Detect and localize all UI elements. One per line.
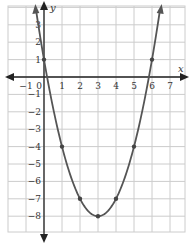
- y-tick-label: −8: [28, 211, 42, 221]
- y-tick-label: −4: [28, 142, 42, 152]
- y-tick-label: −7: [28, 194, 42, 204]
- x-tick-label: 3: [95, 81, 101, 91]
- y-tick-label: 1: [35, 55, 41, 65]
- axes: [5, 1, 189, 243]
- data-point: [96, 214, 100, 218]
- y-axis-label: y: [49, 2, 56, 13]
- y-axis-down-arrow: [40, 234, 48, 243]
- y-tick-label: −5: [28, 159, 42, 169]
- y-tick-label: −3: [28, 124, 42, 134]
- data-point: [78, 197, 82, 201]
- data-point: [42, 57, 46, 61]
- data-point: [114, 197, 118, 201]
- x-tick-label: 7: [167, 81, 173, 91]
- y-tick-label: −6: [28, 176, 42, 186]
- y-tick-label: −1: [28, 89, 41, 99]
- data-point: [150, 57, 154, 61]
- data-point: [60, 144, 64, 148]
- x-axis-left-arrow: [5, 73, 14, 81]
- x-tick-label: 6: [149, 81, 155, 91]
- data-point: [132, 144, 136, 148]
- parabola-chart: −101234567321−1−2−3−4−5−6−7−8 x y: [0, 0, 190, 246]
- x-tick-label: 4: [113, 81, 119, 91]
- x-axis-label: x: [178, 63, 184, 74]
- y-tick-label: −2: [28, 107, 41, 117]
- x-tick-label: 2: [77, 81, 83, 91]
- x-tick-label: 1: [59, 81, 65, 91]
- x-tick-label: 5: [131, 81, 137, 91]
